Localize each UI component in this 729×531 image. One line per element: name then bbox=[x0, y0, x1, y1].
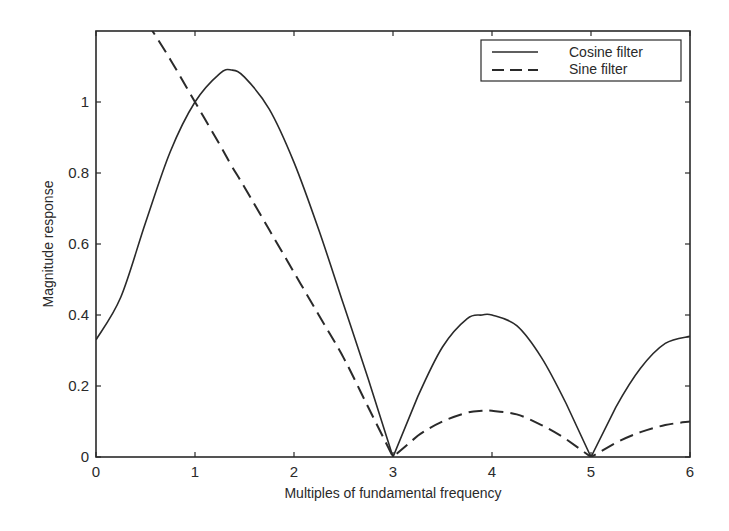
legend: Cosine filter Sine filter bbox=[481, 40, 681, 81]
x-tick-label: 1 bbox=[191, 463, 199, 480]
axes-frame bbox=[96, 31, 690, 457]
y-tick-label: 0.4 bbox=[68, 306, 89, 323]
y-tick-label: 1 bbox=[81, 93, 89, 110]
y-axis-ticks: 00.20.40.60.81 bbox=[68, 93, 690, 465]
y-tick-label: 0.8 bbox=[68, 164, 89, 181]
legend-label-sine: Sine filter bbox=[569, 61, 628, 77]
x-tick-label: 3 bbox=[389, 463, 397, 480]
x-axis-label: Multiples of fundamental frequency bbox=[284, 485, 501, 501]
y-axis-label: Magnitude response bbox=[40, 180, 56, 307]
x-tick-label: 2 bbox=[290, 463, 298, 480]
legend-label-cosine: Cosine filter bbox=[569, 44, 643, 60]
x-tick-label: 6 bbox=[686, 463, 694, 480]
y-tick-label: 0.6 bbox=[68, 235, 89, 252]
cosine-filter-line bbox=[96, 70, 690, 457]
x-axis-ticks: 0123456 bbox=[92, 31, 694, 480]
x-tick-label: 0 bbox=[92, 463, 100, 480]
x-tick-label: 4 bbox=[488, 463, 496, 480]
y-tick-label: 0.2 bbox=[68, 377, 89, 394]
magnitude-response-chart: 0123456 00.20.40.60.81 Multiples of fund… bbox=[0, 0, 729, 531]
y-tick-label: 0 bbox=[81, 448, 89, 465]
x-tick-label: 5 bbox=[587, 463, 595, 480]
